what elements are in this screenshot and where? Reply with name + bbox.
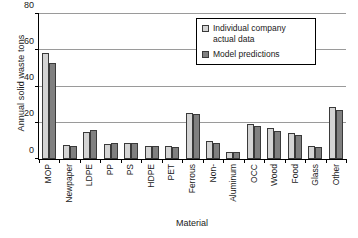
x-tick-mark: [162, 159, 163, 163]
bar: [193, 114, 200, 159]
x-axis-title: Material: [38, 218, 346, 228]
x-tick-mark: [244, 159, 245, 163]
x-category-label: Non-: [208, 164, 218, 182]
bar: [152, 146, 159, 159]
x-category-label: Glass: [310, 164, 320, 186]
x-category: Aluminum: [223, 164, 244, 216]
bar: [233, 152, 240, 159]
bar: [247, 124, 254, 159]
legend-item-model: Model predictions: [202, 49, 309, 60]
bar: [124, 143, 131, 159]
x-tick-mark: [264, 159, 265, 163]
bar: [254, 126, 261, 159]
x-tick-mark: [39, 159, 40, 163]
x-category-label: PS: [125, 164, 135, 175]
x-category-label: LDPE: [84, 164, 94, 186]
x-tick-mark: [59, 159, 60, 163]
legend: Individual company actual data Model pre…: [196, 18, 316, 65]
bar-group: [326, 14, 346, 159]
x-category-label: Food: [290, 164, 300, 183]
x-tick-mark: [223, 159, 224, 163]
bar: [70, 146, 77, 159]
y-axis-title: Annual solid waste tons: [16, 8, 26, 158]
bar-group: [121, 14, 141, 159]
legend-item-actual: Individual company actual data: [202, 23, 309, 45]
x-tick-mark: [100, 159, 101, 163]
x-tick-mark: [326, 159, 327, 163]
x-category-label: OCC: [249, 164, 259, 183]
bar: [90, 130, 97, 159]
bar-group: [162, 14, 182, 159]
bar-group: [39, 14, 59, 159]
bar: [288, 133, 295, 159]
x-category: MOP: [38, 164, 59, 216]
x-category: Newpaper: [59, 164, 80, 216]
y-tick-label: 0: [29, 145, 34, 155]
x-category-label: MOP: [43, 164, 53, 183]
y-tick-label: 20: [24, 108, 34, 118]
bar: [308, 146, 315, 159]
x-tick-mark: [285, 159, 286, 163]
x-category: Ferrous: [182, 164, 203, 216]
x-category: Other: [325, 164, 346, 216]
x-category-label: Wood: [269, 164, 279, 186]
x-category: Non-: [202, 164, 223, 216]
y-tick-label: 80: [24, 0, 34, 10]
y-tick-label: 60: [24, 36, 34, 46]
bar: [274, 131, 281, 159]
x-tick-mark: [182, 159, 183, 163]
x-tick-mark: [121, 159, 122, 163]
legend-label: Model predictions: [213, 49, 280, 60]
dark-gray-swatch-icon: [202, 51, 209, 58]
bar: [49, 63, 56, 159]
x-category: OCC: [243, 164, 264, 216]
bar: [131, 143, 138, 159]
x-tick-mark: [80, 159, 81, 163]
bar: [172, 147, 179, 160]
bar: [295, 135, 302, 159]
bar-group: [141, 14, 161, 159]
bar: [329, 107, 336, 159]
x-tick-mark: [346, 159, 347, 163]
bar: [42, 53, 49, 159]
x-category: Glass: [305, 164, 326, 216]
bar-group: [100, 14, 120, 159]
bar: [111, 143, 118, 159]
x-tick-mark: [305, 159, 306, 163]
x-category-label: HDPE: [146, 164, 156, 188]
bar: [226, 152, 233, 159]
bar: [145, 146, 152, 159]
x-category-label: Aluminum: [228, 164, 238, 202]
bar-group: [59, 14, 79, 159]
bar: [165, 146, 172, 159]
x-category-label: PET: [166, 164, 176, 181]
bar: [104, 144, 111, 159]
x-category-label: Newpaper: [64, 164, 74, 203]
bar: [213, 143, 220, 159]
bar: [83, 132, 90, 159]
bar-group: [80, 14, 100, 159]
bar: [336, 110, 343, 159]
light-gray-swatch-icon: [202, 25, 209, 32]
x-tick-mark: [141, 159, 142, 163]
x-category: PET: [161, 164, 182, 216]
bar: [206, 141, 213, 159]
bar: [63, 145, 70, 159]
x-category: PS: [120, 164, 141, 216]
x-category: Wood: [264, 164, 285, 216]
y-tick-label: 40: [24, 72, 34, 82]
x-category-label: Other: [331, 164, 341, 185]
x-category: Food: [284, 164, 305, 216]
bar: [267, 128, 274, 159]
x-category: PP: [100, 164, 121, 216]
x-axis-category-labels: MOPNewpaperLDPEPPPSHDPEPETFerrousNon-Alu…: [38, 164, 346, 216]
x-category-label: Ferrous: [187, 164, 197, 193]
legend-label: Individual company actual data: [213, 23, 309, 45]
x-category: LDPE: [79, 164, 100, 216]
x-tick-mark: [203, 159, 204, 163]
x-category: HDPE: [141, 164, 162, 216]
bar: [186, 113, 193, 159]
bar-chart: Annual solid waste tons 020406080 MOPNew…: [0, 0, 358, 238]
bar: [315, 147, 322, 159]
x-category-label: PP: [105, 164, 115, 175]
